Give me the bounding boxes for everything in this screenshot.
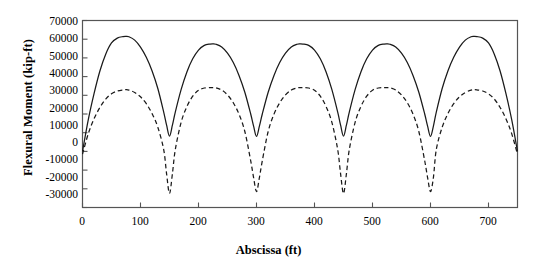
y-tick-marks [83,21,88,208]
series-line-positive-envelope [83,36,518,151]
plot-frame [83,21,518,208]
x-tick-marks [83,203,489,208]
chart-figure: Flexural Moment (kip-ft) Abscissa (ft) 7… [0,0,537,270]
series-line-negative-envelope [83,88,518,194]
plot-area [0,0,537,270]
